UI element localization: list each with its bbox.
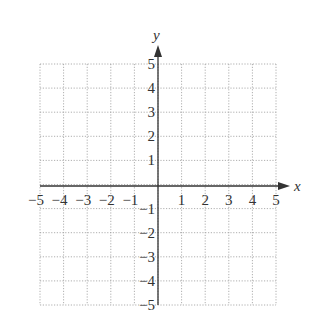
x-tick-label: 3	[225, 192, 233, 208]
x-tick-label: 4	[249, 192, 257, 208]
x-tick-label: −4	[52, 192, 68, 208]
y-tick-label: 1	[148, 152, 156, 168]
x-tick-label: 2	[201, 192, 209, 208]
y-tick-label: 5	[148, 56, 156, 72]
x-tick-label: −2	[99, 192, 115, 208]
x-axis-arrow-icon	[278, 182, 290, 190]
y-tick-label: 4	[148, 80, 156, 96]
x-axis-label: x	[293, 178, 301, 194]
y-tick-label: 2	[148, 128, 156, 144]
x-tick-label: 5	[272, 192, 280, 208]
x-tick-label: −3	[75, 192, 91, 208]
x-tick-label: 1	[178, 192, 186, 208]
x-tick-label: −5	[28, 192, 44, 208]
y-tick-label: −3	[139, 249, 155, 265]
y-axis-arrow-icon	[154, 45, 162, 57]
y-axis-label: y	[151, 27, 160, 43]
y-tick-label: −4	[139, 273, 155, 289]
coordinate-plane: x y −5−4−3−2−112345 −5−4−3−2−112345	[0, 0, 327, 331]
y-tick-label: −2	[139, 225, 155, 241]
x-tick-label: −1	[122, 192, 138, 208]
y-tick-label: −1	[139, 201, 155, 217]
y-tick-label: 3	[148, 104, 156, 120]
y-tick-label: −5	[139, 297, 155, 313]
